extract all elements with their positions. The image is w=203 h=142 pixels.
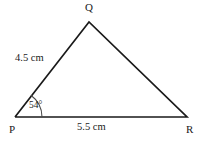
geometry-diagram-canvas: Q P R 4.5 cm 5.5 cm 54° xyxy=(0,0,203,142)
vertex-label-p: P xyxy=(9,124,15,135)
vertex-label-r: R xyxy=(186,124,193,135)
angle-measure-label-p: 54° xyxy=(29,101,42,111)
vertex-label-q: Q xyxy=(85,2,93,13)
side-length-label-pq: 4.5 cm xyxy=(15,53,44,64)
side-length-label-pr: 5.5 cm xyxy=(77,122,106,133)
